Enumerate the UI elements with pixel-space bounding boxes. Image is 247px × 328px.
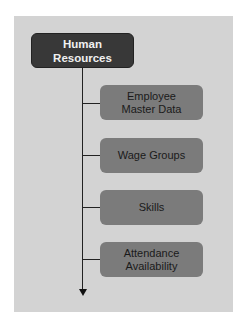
branch-connector <box>82 207 100 208</box>
branch-connector <box>82 155 100 156</box>
vertical-connector-line <box>82 68 83 290</box>
root-node-human-resources: Human Resources <box>31 33 134 68</box>
branch-connector <box>82 259 100 260</box>
child-node-label: Attendance Availability <box>124 247 180 273</box>
child-node-label: Wage Groups <box>118 149 185 162</box>
child-node-attendance-availability: Attendance Availability <box>100 242 203 277</box>
child-node-label: Employee Master Data <box>122 90 182 116</box>
child-node-skills: Skills <box>100 190 203 225</box>
child-node-label: Skills <box>139 201 165 214</box>
branch-connector <box>82 103 100 104</box>
child-node-employee-master-data: Employee Master Data <box>100 85 203 120</box>
arrow-down-icon <box>79 289 87 296</box>
root-node-label: Human Resources <box>53 37 112 65</box>
child-node-wage-groups: Wage Groups <box>100 138 203 173</box>
